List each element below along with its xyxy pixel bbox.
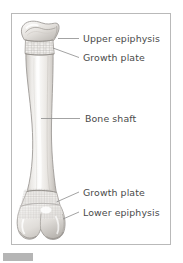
label-growth-plate-bottom: Growth plate (83, 188, 145, 197)
label-bone-shaft: Bone shaft (85, 114, 136, 123)
scrollbar-thumb[interactable] (3, 253, 33, 261)
figure-canvas: Upper epiphysis Growth plate Bone shaft … (0, 0, 183, 263)
label-upper-epiphysis: Upper epiphysis (83, 34, 160, 43)
label-lower-epiphysis: Lower epiphysis (83, 208, 160, 217)
label-growth-plate-top: Growth plate (83, 53, 145, 62)
